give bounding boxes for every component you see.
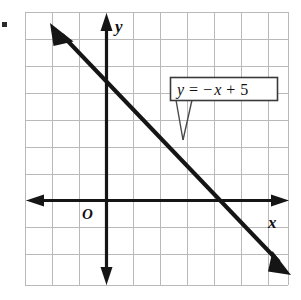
equation-callout-box: y=−x+5 (171, 78, 278, 101)
origin-label: O (82, 206, 93, 222)
equation-y-term: y (175, 81, 185, 99)
coordinate-graph-figure: y=−x+5 y x O (0, 0, 301, 300)
equation-constant: 5 (240, 81, 248, 98)
y-axis-label: y (113, 17, 123, 36)
x-axis-label: x (267, 213, 277, 232)
item-marker-dot (2, 22, 7, 27)
equation-plus: + (226, 81, 235, 98)
equation-equals: = (189, 81, 198, 98)
graph-canvas: y=−x+5 y x O (0, 0, 301, 300)
equation-x-term: x (213, 81, 221, 98)
equation-minus: − (203, 81, 212, 98)
